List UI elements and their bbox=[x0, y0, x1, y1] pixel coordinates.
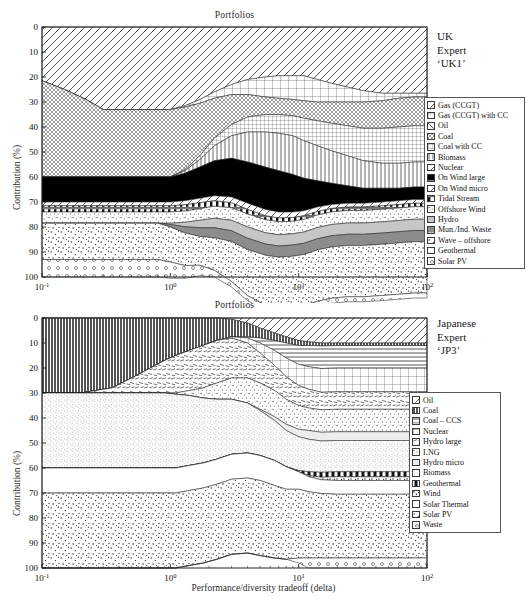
legend-item[interactable]: Geothermal bbox=[427, 245, 521, 255]
legend-item[interactable]: Wind bbox=[412, 489, 497, 499]
legend-item[interactable]: Solar Thermal bbox=[412, 499, 497, 509]
legend-swatch-dense-grid bbox=[427, 143, 435, 151]
legend-item[interactable]: Hydro bbox=[427, 214, 521, 224]
legend-swatch-circles bbox=[412, 521, 420, 529]
svg-text:10: 10 bbox=[29, 338, 39, 348]
legend-item[interactable]: Hydro micro bbox=[412, 457, 497, 467]
legend-label: LNG bbox=[423, 448, 439, 457]
svg-text:100: 100 bbox=[164, 572, 176, 584]
legend-item[interactable]: On Wind large bbox=[427, 173, 521, 183]
y-axis-label-uk: Contribution (%) bbox=[12, 145, 22, 210]
legend-item[interactable]: Gas (CCGT) bbox=[427, 100, 521, 110]
legend-item[interactable]: Biomass bbox=[412, 468, 497, 478]
legend-label: Mun./Ind. Waste bbox=[438, 225, 491, 234]
chart-legend-jp[interactable]: OilCoalCoal – CCSNuclearHydro largeLNGHy… bbox=[409, 392, 501, 533]
legend-label: Solar PV bbox=[423, 510, 452, 519]
svg-text:101: 101 bbox=[293, 572, 305, 584]
panel-annotation-uk: UK Expert ‘UK1’ bbox=[437, 30, 466, 71]
svg-text:40: 40 bbox=[29, 413, 39, 423]
svg-text:20: 20 bbox=[29, 72, 39, 82]
legend-label: Geothermal bbox=[423, 479, 461, 488]
svg-text:90: 90 bbox=[29, 538, 39, 548]
legend-label: Gas (CCGT) bbox=[438, 101, 479, 110]
annotation-line-3: ‘JP3’ bbox=[437, 344, 476, 358]
legend-swatch-white-plain bbox=[412, 500, 420, 508]
chart-legend-uk[interactable]: Gas (CCGT)Gas (CCGT) with CCOilCoalCoal … bbox=[424, 97, 525, 269]
legend-label: On Wind micro bbox=[438, 184, 488, 193]
svg-text:40: 40 bbox=[29, 122, 39, 132]
legend-item[interactable]: Mun./Ind. Waste bbox=[427, 225, 521, 235]
legend-item[interactable]: Coal – CCS bbox=[412, 416, 497, 426]
legend-swatch-speckle-med bbox=[412, 448, 420, 456]
svg-text:0: 0 bbox=[34, 22, 39, 32]
legend-label: Coal bbox=[423, 406, 438, 415]
legend-swatch-diag-hatch-right bbox=[412, 396, 420, 404]
legend-item[interactable]: Hydro large bbox=[412, 437, 497, 447]
legend-item[interactable]: Oil bbox=[412, 395, 497, 405]
legend-item[interactable]: On Wind micro bbox=[427, 183, 521, 193]
legend-item[interactable]: Coal with CC bbox=[427, 142, 521, 152]
legend-item[interactable]: Geothermal bbox=[412, 478, 497, 488]
annotation-line-1: Japanese bbox=[437, 317, 476, 331]
legend-label: Biomass bbox=[423, 468, 451, 477]
legend-swatch-fine-grid bbox=[412, 428, 420, 436]
svg-text:20: 20 bbox=[29, 363, 39, 373]
legend-item[interactable]: Solar PV bbox=[427, 256, 521, 266]
legend-label: Hydro micro bbox=[423, 458, 464, 467]
legend-item[interactable]: Oil bbox=[427, 121, 521, 131]
legend-item[interactable]: Solar PV bbox=[412, 509, 497, 519]
svg-text:30: 30 bbox=[29, 97, 39, 107]
legend-swatch-speckle-dark bbox=[412, 490, 420, 498]
legend-label: Solar Thermal bbox=[423, 500, 469, 509]
legend-label: Coal bbox=[438, 132, 453, 141]
legend-item[interactable]: Nuclear bbox=[412, 426, 497, 436]
legend-swatch-circles bbox=[427, 257, 435, 265]
svg-text:100: 100 bbox=[25, 563, 39, 573]
legend-swatch-horiz-lines bbox=[412, 417, 420, 425]
legend-label: Hydro bbox=[438, 215, 458, 224]
legend-label: Oil bbox=[423, 396, 433, 405]
legend-label: Coal with CC bbox=[438, 142, 482, 151]
legend-swatch-white-plain bbox=[427, 247, 435, 255]
legend-item[interactable]: Waste bbox=[412, 520, 497, 530]
svg-text:70: 70 bbox=[29, 488, 39, 498]
legend-label: Coal – CCS bbox=[423, 416, 461, 425]
svg-text:80: 80 bbox=[29, 513, 39, 523]
legend-item[interactable]: Coal bbox=[412, 405, 497, 415]
chart-panel-jp: Portfolios Contribution (%) 010203040506… bbox=[0, 296, 527, 606]
legend-label: Oil bbox=[438, 121, 448, 130]
chart-panel-uk: Portfolios Contribution (%) 010203040506… bbox=[0, 0, 527, 303]
legend-label: Hydro large bbox=[423, 437, 461, 446]
legend-label: Nuclear bbox=[438, 163, 463, 172]
legend-item[interactable]: Nuclear bbox=[427, 162, 521, 172]
legend-label: Offshore Wind bbox=[438, 205, 486, 214]
legend-item[interactable]: Biomass bbox=[427, 152, 521, 162]
legend-label: Wave – offshore bbox=[438, 236, 491, 245]
svg-text:102: 102 bbox=[421, 572, 433, 584]
legend-swatch-diag-hatch-left bbox=[427, 122, 435, 130]
legend-item[interactable]: Offshore Wind bbox=[427, 204, 521, 214]
legend-swatch-cross-weave bbox=[427, 133, 435, 141]
legend-item[interactable]: Coal bbox=[427, 131, 521, 141]
legend-label: Gas (CCGT) with CC bbox=[438, 111, 508, 120]
legend-swatch-speckle-coarse bbox=[412, 511, 420, 519]
legend-swatch-diag-hatch-right bbox=[427, 101, 435, 109]
legend-item[interactable]: Gas (CCGT) with CC bbox=[427, 110, 521, 120]
legend-swatch-speckle-coarse bbox=[427, 237, 435, 245]
legend-swatch-light-gray bbox=[427, 216, 435, 224]
legend-item[interactable]: Wave – offshore bbox=[427, 235, 521, 245]
svg-text:70: 70 bbox=[29, 197, 39, 207]
legend-swatch-solid-black bbox=[427, 174, 435, 182]
annotation-line-2: Expert bbox=[437, 44, 466, 58]
x-axis-label: Performance/diversity tradeoff (delta) bbox=[0, 583, 527, 593]
legend-item[interactable]: LNG bbox=[412, 447, 497, 457]
svg-text:100: 100 bbox=[25, 272, 39, 282]
legend-item[interactable]: Tidal Stream bbox=[427, 194, 521, 204]
legend-label: On Wind large bbox=[438, 173, 485, 182]
annotation-line-3: ‘UK1’ bbox=[437, 57, 466, 71]
svg-text:50: 50 bbox=[29, 438, 39, 448]
legend-swatch-vert-lines bbox=[427, 153, 435, 161]
svg-text:0: 0 bbox=[34, 313, 39, 323]
legend-swatch-dashes bbox=[412, 438, 420, 446]
chart-title-uk: Portfolios bbox=[42, 10, 427, 20]
